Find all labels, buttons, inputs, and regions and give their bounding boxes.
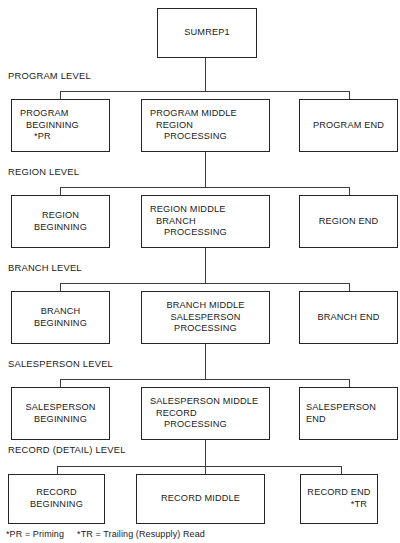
box-record-beginning[interactable]: RECORD BEGINNING (8, 474, 105, 524)
box-line: BEGINNING (18, 414, 103, 426)
box-line: PROCESSING (148, 323, 263, 335)
box-branch-middle[interactable]: BRANCH MIDDLE SALESPERSON PROCESSING (141, 291, 270, 344)
bus-program (60, 91, 350, 92)
box-line: RECORD (148, 408, 263, 420)
box-salesperson-middle[interactable]: SALESPERSON MIDDLE RECORD PROCESSING (141, 387, 270, 440)
box-line: BRANCH (18, 306, 103, 318)
box-record-middle[interactable]: RECORD MIDDLE (136, 474, 265, 524)
box-line: RECORD END (307, 487, 371, 499)
box-line: REGION (148, 120, 263, 132)
box-line: BEGINNING (18, 222, 103, 234)
box-salesperson-beginning[interactable]: SALESPERSON BEGINNING (11, 387, 110, 440)
box-line: BEGINNING (18, 120, 103, 132)
box-line: PROCESSING (148, 131, 263, 143)
box-region-middle[interactable]: REGION MIDDLE BRANCH PROCESSING (141, 195, 270, 248)
bus-record (57, 466, 342, 467)
box-branch-end[interactable]: BRANCH END (299, 291, 398, 344)
box-line: BRANCH END (306, 312, 391, 324)
box-salesperson-end[interactable]: SALESPERSON END (299, 387, 398, 440)
program-structure-chart: SUMREP1 PROGRAM LEVEL PROGRAM BEGINNING … (0, 0, 400, 543)
box-line: SALESPERSON (148, 312, 263, 324)
box-line: SALESPERSON (306, 402, 391, 414)
box-program-end[interactable]: PROGRAM END (299, 99, 398, 152)
box-line: *TR (307, 499, 371, 511)
box-record-end[interactable]: RECORD END *TR (300, 474, 378, 524)
box-line: BEGINNING (15, 499, 98, 511)
spine-root-to-program (205, 58, 206, 91)
footnote-legend: *PR = Priming *TR = Trailing (Resupply) … (6, 529, 205, 540)
box-line: PROGRAM MIDDLE (148, 108, 263, 120)
spine-program-to-region (205, 152, 206, 187)
box-root-sumrep1[interactable]: SUMREP1 (157, 8, 257, 58)
box-line: SUMREP1 (164, 27, 250, 39)
box-line: RECORD MIDDLE (143, 493, 258, 505)
box-region-end[interactable]: REGION END (299, 195, 398, 248)
box-line: REGION (18, 210, 103, 222)
box-line: PROGRAM END (306, 120, 391, 132)
level-label-record: RECORD (DETAIL) LEVEL (8, 444, 126, 455)
box-line: PROGRAM (18, 108, 103, 120)
box-line: BRANCH MIDDLE (148, 300, 263, 312)
box-line: *PR (18, 131, 103, 143)
level-label-salesperson: SALESPERSON LEVEL (8, 358, 113, 369)
box-line: BEGINNING (18, 318, 103, 330)
box-line: REGION END (306, 216, 391, 228)
level-label-branch: BRANCH LEVEL (8, 262, 82, 273)
box-program-middle[interactable]: PROGRAM MIDDLE REGION PROCESSING (141, 99, 270, 152)
box-line: PROCESSING (148, 419, 263, 431)
box-line: SALESPERSON MIDDLE (148, 396, 263, 408)
spine-salesperson-to-record (205, 440, 206, 475)
box-line: REGION MIDDLE (148, 204, 263, 216)
box-line: SALESPERSON (18, 402, 103, 414)
bus-region (60, 187, 350, 188)
level-label-region: REGION LEVEL (8, 166, 79, 177)
box-line: END (306, 414, 391, 426)
box-program-beginning[interactable]: PROGRAM BEGINNING *PR (11, 99, 110, 152)
bus-salesperson (60, 379, 350, 380)
box-line: BRANCH (148, 216, 263, 228)
level-label-program: PROGRAM LEVEL (8, 70, 91, 81)
box-line: RECORD (15, 487, 98, 499)
box-line: PROCESSING (148, 227, 263, 239)
spine-region-to-branch (205, 248, 206, 283)
bus-branch (60, 283, 350, 284)
spine-branch-to-salesperson (205, 344, 206, 379)
box-branch-beginning[interactable]: BRANCH BEGINNING (11, 291, 110, 344)
box-region-beginning[interactable]: REGION BEGINNING (11, 195, 110, 248)
